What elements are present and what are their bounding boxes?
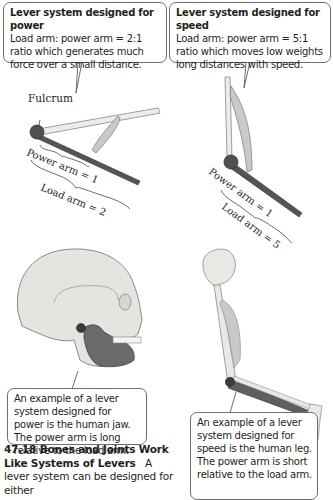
figure-caption: 47.18 Bones and Joints Work Like Systems…: [4, 443, 179, 497]
power-system-callout: Lever system designed for power Load arm…: [3, 2, 167, 63]
fulcrum-joint-icon: [30, 125, 44, 139]
skull-illustration: [17, 249, 142, 367]
leg-example-body: An example of a lever system designed fo…: [197, 417, 312, 480]
jaw-fulcrum-icon: [77, 324, 86, 333]
power-system-title: Lever system designed for power: [10, 6, 161, 32]
load-arm-label-2: Load arm = 2: [39, 182, 108, 218]
leg-example-callout: An example of a lever system designed fo…: [190, 412, 318, 500]
speed-system-body: Load arm: power arm = 5:1 ratio which mo…: [176, 33, 323, 70]
speed-system-callout: Lever system designed for speed Load arm…: [169, 2, 331, 63]
jaw-callout-pointer: [72, 371, 78, 389]
caption-heading: 47.18 Bones and Joints Work Like Systems…: [4, 443, 169, 469]
power-system-body: Load arm: power arm = 2:1 ratio which ge…: [10, 33, 144, 70]
speed-fulcrum-joint-icon: [224, 155, 238, 169]
knee-fulcrum-icon: [225, 377, 235, 387]
fulcrum-label: Fulcrum: [28, 92, 73, 104]
leg-callout-pointer: [230, 392, 236, 413]
jaw-example-callout: An example of a lever system designed fo…: [7, 388, 147, 445]
speed-system-title: Lever system designed for speed: [176, 6, 325, 32]
